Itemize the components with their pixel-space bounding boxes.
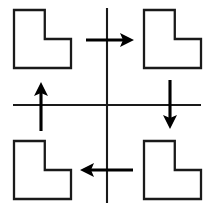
l-shape-top-right xyxy=(144,10,201,68)
transformation-diagram xyxy=(0,0,212,209)
arrow-right-icon xyxy=(86,33,134,47)
l-shape-top-left xyxy=(14,10,71,68)
arrow-up-icon xyxy=(34,82,48,131)
l-shape-bottom-left xyxy=(14,141,71,199)
l-shape-bottom-right xyxy=(144,141,201,199)
figure-container xyxy=(0,0,212,209)
